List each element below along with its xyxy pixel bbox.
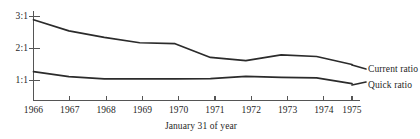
y-axis-tick-label-2to1: 2:1 — [4, 44, 28, 54]
x-axis-tick-label-1969: 1969 — [125, 106, 159, 116]
x-axis-tick-label-1971: 1971 — [198, 106, 232, 116]
x-axis-tick-label-1973: 1973 — [271, 106, 305, 116]
x-axis-tick-label-1967: 1967 — [53, 106, 87, 116]
y-axis-tick-label-1to1: 1:1 — [4, 76, 28, 86]
series-line-quick-ratio — [34, 72, 353, 84]
series-leader-current-ratio — [352, 65, 366, 69]
series-label-current-ratio: Current ratio — [368, 65, 418, 75]
x-axis-tick-label-1968: 1968 — [89, 106, 123, 116]
x-axis-title: January 31 of year — [131, 122, 271, 132]
chart-container: 3:1 2:1 1:1 1966 1967 1968 1969 1970 197… — [0, 0, 420, 139]
x-axis-tick-label-1966: 1966 — [17, 106, 51, 116]
chart-plot-area — [0, 0, 420, 139]
x-axis-tick-label-1975: 1975 — [335, 106, 369, 116]
series-leader-quick-ratio — [352, 82, 366, 85]
y-axis-tick-label-3to1: 3:1 — [4, 12, 28, 22]
series-line-current-ratio — [34, 20, 353, 65]
series-label-quick-ratio: Quick ratio — [368, 81, 412, 91]
x-axis-tick-label-1972: 1972 — [234, 106, 268, 116]
x-axis-tick-label-1970: 1970 — [162, 106, 196, 116]
